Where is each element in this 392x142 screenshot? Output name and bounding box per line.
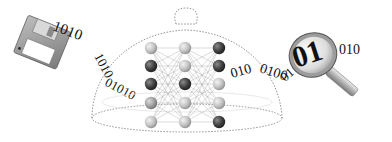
magnifying-glass-icon: 01 010 xyxy=(283,26,360,97)
network-node-dark xyxy=(145,60,157,72)
binary-stream-right: 010 0100 01 xyxy=(229,61,297,85)
network-node-light xyxy=(145,116,157,128)
network-node-dark xyxy=(179,78,191,90)
network-node-dark xyxy=(213,116,225,128)
network-node-mid xyxy=(145,97,157,109)
diagram-canvas: 1010 1010 01010 010 0100 01 01 010 xyxy=(0,0,392,142)
magnifier-handle xyxy=(325,66,359,97)
network-node-dark xyxy=(145,78,157,90)
network-node-light xyxy=(213,97,225,109)
binary-text-arc-2: 01010 xyxy=(103,74,139,103)
network-node-light xyxy=(213,78,225,90)
network-node-light xyxy=(179,42,191,54)
network-node-dark xyxy=(213,60,225,72)
dome-knob xyxy=(175,8,198,24)
binary-text-tail: 010 xyxy=(339,42,360,57)
network-node-light xyxy=(145,42,157,54)
binary-text-right-1: 010 xyxy=(229,61,253,81)
network-node-light xyxy=(179,116,191,128)
network-node-light xyxy=(179,60,191,72)
binary-stream-left: 1010 1010 01010 xyxy=(51,18,138,103)
network-node-dark xyxy=(213,42,225,54)
network-node-light xyxy=(179,97,191,109)
